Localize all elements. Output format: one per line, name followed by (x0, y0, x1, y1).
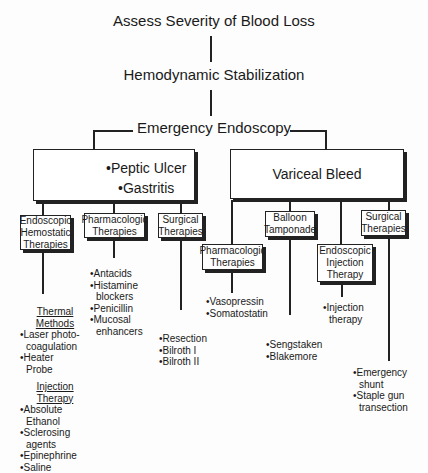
list-item: •Epinephrine (20, 450, 90, 462)
connector-line (290, 130, 327, 132)
label-line: Tamponade (264, 224, 316, 236)
list-item: •Blakemore (266, 351, 322, 363)
condition-gastritis: •Gastritis (106, 178, 186, 198)
list-item: shunt (353, 379, 408, 391)
connector-line (93, 130, 95, 150)
endoscopic-injection-therapy-box: EndoscopicInjectionTherapy (317, 244, 373, 282)
label-line: Therapies (81, 226, 147, 238)
connector-line (180, 202, 182, 213)
label-line: Therapies (20, 239, 72, 251)
thermal-heading: Methods (20, 318, 90, 330)
peptic-ulcer-gastritis-box: •Peptic Ulcer •Gastritis (33, 149, 195, 201)
list-item: Ethanol (20, 416, 90, 428)
list-item: •Staple gun (353, 390, 408, 402)
label-line: Therapies (199, 257, 265, 269)
list-item: •Saline (20, 462, 90, 473)
label-line: Endoscopic (20, 215, 72, 227)
connector-line (42, 202, 44, 215)
connector-line (210, 90, 212, 116)
label-line: Therapy (319, 269, 371, 281)
connector-line (289, 240, 291, 315)
list-item: •Vasopressin (206, 296, 268, 308)
step-emergency-endoscopy: Emergency Endoscopy (0, 119, 428, 136)
list-item: coagulation (20, 341, 90, 353)
label-line: Injection (319, 257, 371, 269)
condition-peptic-ulcer: •Peptic Ulcer (106, 158, 186, 178)
list-item: blockers (90, 291, 143, 303)
balloon-list: •Sengstaken •Blakemore (266, 339, 322, 362)
label-line: Surgical (361, 211, 405, 223)
label-line: Therapies (361, 223, 405, 235)
surgical-list-right: •Emergency shunt •Staple gun transection (353, 367, 408, 413)
surgical-therapies-box-right: SurgicalTherapies (361, 210, 406, 236)
injection-list-right: •Injection therapy (323, 302, 364, 325)
variceal-bleed-label: Variceal Bleed (272, 166, 361, 182)
list-item: •Sclerosing (20, 427, 90, 439)
list-item: •Laser photo- (20, 329, 90, 341)
list-item: •Antacids (90, 268, 143, 280)
connector-line (231, 273, 233, 293)
connector-line (210, 36, 212, 62)
list-item: enhancers (90, 326, 143, 338)
list-item: •Heater (20, 352, 90, 364)
list-item: Probe (20, 364, 90, 376)
connector-line (341, 285, 343, 297)
list-item: •Sengstaken (266, 339, 322, 351)
variceal-bleed-box: Variceal Bleed (230, 149, 404, 199)
list-item: transection (353, 402, 408, 414)
connector-line (42, 253, 44, 294)
pharmacologic-therapies-box-right: PharmacologicTherapies (202, 244, 263, 270)
list-item: •Emergency (353, 367, 408, 379)
injection-heading: Injection (20, 381, 90, 393)
step-assess-blood-loss: Assess Severity of Blood Loss (0, 12, 428, 29)
label-line: Endoscopic (319, 245, 371, 257)
label-line: Pharmacologic (81, 214, 147, 226)
list-item: •Injection (323, 302, 364, 314)
label-line: Balloon (264, 212, 316, 224)
connector-line (113, 202, 115, 213)
step-hemodynamic-stabilization: Hemodynamic Stabilization (0, 66, 428, 83)
pharmacologic-list-right: •Vasopressin •Somatostatin (206, 296, 268, 319)
endoscopic-hemostatic-therapies-box: EndoscopicHemostaticTherapies (20, 215, 71, 250)
surgical-therapies-box-left: SurgicalTherapies (158, 213, 203, 238)
list-item: •Absolute (20, 404, 90, 416)
label-line: Surgical (158, 214, 202, 226)
balloon-tamponade-box: BalloonTamponade (265, 211, 315, 237)
list-item: •Mucosal (90, 314, 143, 326)
list-item: •Penicillin (90, 303, 143, 315)
injection-heading: Therapy (20, 393, 90, 405)
thermal-methods-list: Thermal Methods •Laser photo- coagulatio… (20, 306, 90, 375)
label-line: Pharmacologic (199, 245, 265, 257)
pharmacologic-list-left: •Antacids •Histamine blockers •Penicilli… (90, 268, 143, 337)
list-item: •Bilroth II (159, 356, 207, 368)
connector-line (113, 241, 115, 258)
list-item: therapy (323, 314, 364, 326)
pharmacologic-therapies-box-left: PharmacologicTherapies (84, 213, 145, 238)
list-item: •Somatostatin (206, 308, 268, 320)
list-item: •Histamine (90, 280, 143, 292)
list-item: agents (20, 439, 90, 451)
label-line: Hemostatic (20, 227, 72, 239)
connector-line (388, 239, 390, 361)
injection-therapy-list: Injection Therapy •Absolute Ethanol •Scl… (20, 381, 90, 473)
connector-line (388, 200, 390, 210)
surgical-list-left: •Resection •Bilroth I •Bilroth II (159, 333, 207, 368)
connector-line (231, 200, 233, 245)
connector-line (93, 130, 133, 132)
connector-line (325, 130, 327, 150)
connector-line (180, 241, 182, 310)
label-line: Therapies (158, 226, 202, 238)
connector-line (340, 200, 342, 245)
list-item: •Bilroth I (159, 345, 207, 357)
list-item: •Resection (159, 333, 207, 345)
thermal-heading: Thermal (20, 306, 90, 318)
